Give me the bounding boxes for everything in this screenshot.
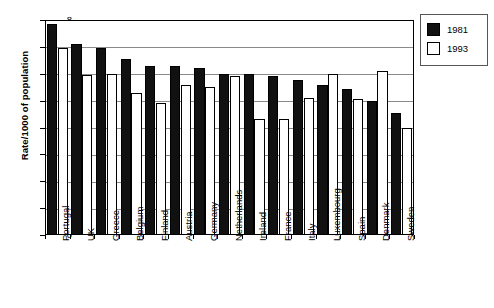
bar-group: [94, 20, 119, 235]
legend-label-1981: 1981: [447, 25, 468, 35]
bar-group: [389, 20, 414, 235]
x-axis-label-belgium: Belgium: [135, 207, 145, 241]
bar-finland-1981: [145, 66, 155, 235]
bars-layer: [45, 20, 414, 235]
bar-uk-1981: [71, 44, 81, 235]
bar-group: [266, 20, 291, 235]
x-axis-label-ireland: Ireland: [258, 212, 268, 241]
bar-denmark-1981: [367, 101, 377, 235]
x-axis-label-finland: Finland: [160, 210, 170, 241]
bar-group: [168, 20, 193, 235]
bar-austria-1981: [170, 66, 180, 235]
x-axis-label-uk: UK: [86, 228, 96, 241]
x-axis-label-denmark: Denmark: [381, 202, 391, 241]
bar-uk-1993: [82, 75, 92, 235]
bar-group: [340, 20, 365, 235]
legend-swatch-filled-icon: [427, 23, 440, 36]
x-axis-label-spain: Spain: [357, 217, 367, 241]
chart-legend: 1981 1993: [420, 14, 488, 66]
bar-group: [143, 20, 168, 235]
bar-netherlands-1981: [219, 74, 229, 235]
bar-italy-1981: [293, 80, 303, 235]
bar-spain-1993: [353, 99, 363, 235]
bar-group: [242, 20, 267, 235]
bar-germany-1981: [194, 68, 204, 235]
bar-group: [291, 20, 316, 235]
bar-sweden-1981: [391, 113, 401, 235]
legend-label-1993: 1993: [447, 44, 468, 54]
legend-swatch-outlined-icon: [427, 42, 440, 55]
bar-group: [45, 20, 70, 235]
bar-chart: Rate/1000 of population 012345678 Portug…: [0, 0, 494, 308]
y-axis-title: Rate/1000 of population: [19, 26, 30, 186]
x-axis-label-netherlands: Netherlands: [234, 190, 244, 241]
bar-greece-1981: [96, 48, 106, 235]
bar-luxembourg-1981: [317, 85, 327, 236]
x-axis-label-sweden: Sweden: [406, 207, 416, 241]
legend-item-1981: 1981: [427, 20, 487, 39]
bar-portugal-1981: [47, 24, 57, 235]
x-axis-label-italy: Italy: [307, 224, 317, 241]
bar-group: [119, 20, 144, 235]
x-axis-label-luxembourg: Luxembourg: [332, 188, 342, 241]
bar-spain-1981: [342, 89, 352, 235]
bar-ireland-1981: [244, 74, 254, 235]
bar-italy-1993: [304, 98, 314, 235]
bar-group: [70, 20, 95, 235]
bar-france-1981: [268, 76, 278, 235]
x-axis-tick-mark: [45, 235, 46, 239]
x-axis-label-austria: Austria: [184, 211, 194, 241]
x-axis-label-greece: Greece: [111, 210, 121, 241]
x-axis-label-portugal: Portugal: [61, 206, 71, 241]
legend-item-1993: 1993: [427, 39, 487, 58]
x-axis-label-france: France: [283, 211, 293, 241]
bar-belgium-1981: [121, 59, 131, 235]
x-axis-label-germany: Germany: [209, 202, 219, 241]
